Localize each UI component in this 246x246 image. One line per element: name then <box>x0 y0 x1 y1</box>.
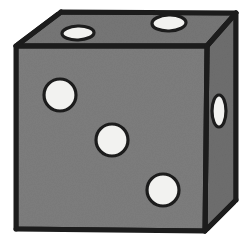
edge-front-bottom-icon <box>16 229 205 231</box>
dice-illustration-canvas <box>0 0 246 246</box>
pip-top-left <box>62 25 94 40</box>
dice-figure <box>0 0 246 246</box>
pip-front-top-left <box>44 79 76 111</box>
pip-top-right <box>152 14 187 31</box>
edge-top-back-icon <box>61 12 236 13</box>
edge-front-right-icon <box>205 46 207 231</box>
pip-right-middle <box>212 95 226 127</box>
pip-front-center <box>96 124 128 156</box>
pip-front-bottom-right <box>147 174 179 206</box>
